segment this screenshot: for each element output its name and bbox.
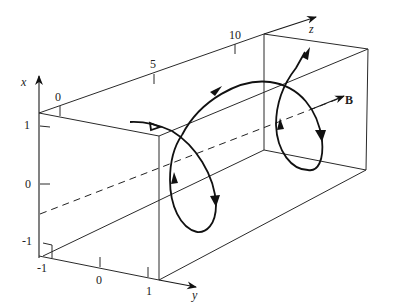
bounding-box xyxy=(39,34,368,280)
b-field-label: B xyxy=(345,93,353,107)
ticks xyxy=(40,44,235,277)
x-tick-0: 0 xyxy=(25,177,31,191)
z-tick-0: 0 xyxy=(55,90,61,104)
y-tick-1: 1 xyxy=(146,284,152,298)
x-tick-1: 1 xyxy=(24,118,30,132)
y-axis-label: y xyxy=(191,288,198,302)
x-axis-label: x xyxy=(20,75,27,89)
z-tick-5: 5 xyxy=(150,57,156,71)
x-tick-neg1: -1 xyxy=(22,234,32,248)
z-axis-label: z xyxy=(308,22,314,36)
b-field-arrow xyxy=(312,96,344,109)
helix-3d-diagram: x z y 1 0 -1 -1 0 1 0 5 10 B xyxy=(0,0,395,308)
y-tick-neg1: -1 xyxy=(37,261,47,275)
z-tick-10: 10 xyxy=(229,28,241,42)
field-line xyxy=(40,99,338,214)
y-axis xyxy=(159,280,196,287)
y-tick-0: 0 xyxy=(96,273,102,287)
